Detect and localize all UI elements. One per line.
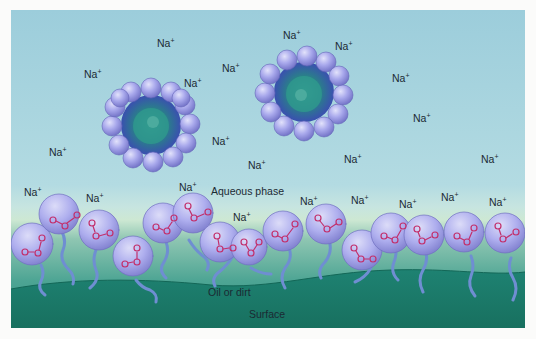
surface-label: Surface xyxy=(249,308,285,320)
soap-micelle-diagram: Na+ Na+ Na+ Na+ Na+ Na+ Na+ Na+ Na+ Na+ … xyxy=(11,10,525,328)
diagram-canvas: Na+ Na+ Na+ Na+ Na+ Na+ Na+ Na+ Na+ Na+ … xyxy=(11,10,525,328)
oil-or-dirt-label: Oil or dirt xyxy=(208,286,251,298)
aqueous-phase-label: Aqueous phase xyxy=(211,185,284,197)
